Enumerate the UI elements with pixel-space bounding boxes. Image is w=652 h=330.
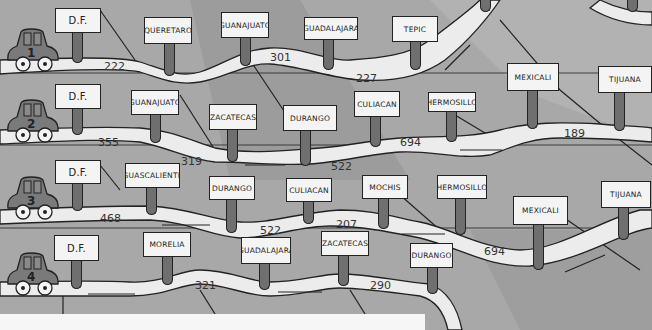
sign-mexicali: Mexicali (513, 196, 568, 225)
route-illustration: 1 D.F. Queretaro Guanajuato Guadalajara … (0, 0, 652, 330)
sign-mochis: Mochis (362, 175, 408, 199)
car-number: 2 (27, 117, 35, 131)
distance-label: 468 (100, 212, 121, 225)
sign-zacatecas: Zacatecas (321, 231, 369, 256)
sign-df: D.F. (55, 8, 101, 33)
distance-label: 222 (104, 60, 125, 73)
sign-guadalajara: Guadalajara (304, 17, 358, 40)
sign-durango: Durango (209, 176, 255, 200)
sign-post (227, 130, 238, 162)
sign-post (240, 38, 251, 66)
sign-post (226, 200, 237, 233)
blank-area (0, 314, 425, 330)
sign-culiacan: Culiacan (354, 91, 400, 117)
sign-tepic: Tepic (392, 16, 438, 42)
sign-post (303, 202, 314, 224)
sign-post (527, 91, 538, 129)
sign-post (164, 44, 175, 76)
distance-label: 319 (181, 155, 202, 168)
sign-mexicali: Mexicali (507, 63, 559, 91)
sign-morelia: Morelia (143, 232, 191, 257)
sign-zacatecas: Zacatecas (209, 104, 257, 130)
sign-guanajuato: Guanajuato (131, 90, 179, 115)
distance-label: 207 (336, 218, 357, 231)
sign-tijuana: Tijuana (601, 181, 651, 208)
distance-label: 522 (260, 224, 281, 237)
sign-post (378, 199, 389, 229)
sign-post (338, 256, 349, 286)
sign-post (259, 264, 270, 290)
sign-queretaro: Queretaro (144, 17, 192, 44)
sign-post (446, 112, 457, 142)
car-number: 4 (27, 270, 35, 284)
distance-label: 694 (400, 136, 421, 149)
sign-post (72, 33, 83, 63)
sign-post (480, 0, 491, 12)
distance-label: 189 (564, 127, 585, 140)
sign-post (150, 115, 161, 143)
distance-label: 290 (370, 279, 391, 292)
sign-post (455, 199, 466, 235)
distance-label: 694 (484, 245, 505, 258)
sign-post (614, 93, 625, 131)
sign-post (533, 225, 544, 270)
distance-label: 355 (98, 136, 119, 149)
sign-durango: Durango (410, 243, 453, 268)
sign-post (72, 109, 83, 135)
distance-label: 227 (356, 72, 377, 85)
sign-guanajuato: Guanajuato (221, 12, 269, 38)
sign-aguascalientes: Aguascalientes (125, 163, 180, 188)
sign-post (627, 0, 638, 12)
sign-guadalajara: Guadalajara (241, 237, 291, 264)
sign-df: D.F. (55, 160, 101, 184)
sign-culiacan: Culiacan (286, 178, 332, 202)
car-number: 3 (27, 194, 35, 208)
sign-hermosillo: Hermosillo (437, 175, 487, 199)
sign-post (146, 188, 157, 215)
sign-post (162, 257, 173, 285)
sign-post (323, 40, 334, 70)
sign-hermosillo: Hermosillo (428, 92, 476, 112)
sign-post (427, 268, 438, 294)
sign-post (300, 131, 311, 166)
car-4: 4 (3, 248, 59, 298)
car-1: 1 (3, 24, 59, 74)
sign-post (72, 184, 83, 211)
distance-label: 301 (270, 51, 291, 64)
sign-post (410, 42, 421, 70)
sign-durango: Durango (283, 105, 337, 131)
distance-label: 321 (195, 279, 216, 292)
sign-tijuana: Tijuana (598, 66, 652, 93)
sign-df: D.F. (55, 84, 101, 109)
car-2: 2 (3, 95, 59, 145)
sign-post (370, 117, 381, 147)
sign-post (71, 261, 82, 289)
sign-df: D.F. (54, 235, 99, 261)
car-number: 1 (27, 46, 35, 60)
car-3: 3 (3, 172, 59, 222)
sign-post (618, 208, 629, 240)
distance-label: 522 (331, 160, 352, 173)
